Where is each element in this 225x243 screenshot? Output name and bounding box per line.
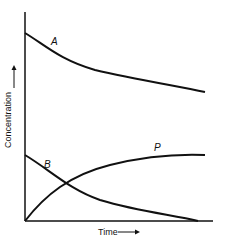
- y-axis-label: Concentration: [3, 92, 13, 148]
- x-axis-label: Time: [98, 227, 118, 237]
- curve-p: [25, 155, 205, 221]
- chart-plot: [0, 0, 225, 243]
- series-label-a: A: [51, 36, 58, 47]
- x-arrow-icon: [118, 230, 140, 235]
- series-label-b: B: [44, 159, 51, 170]
- series-label-p: P: [154, 142, 161, 153]
- y-arrow-icon: [12, 65, 17, 88]
